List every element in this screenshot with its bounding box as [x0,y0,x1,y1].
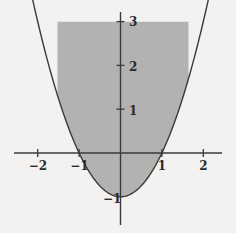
x-tick-label-2: 2 [199,160,207,172]
x-tick-label-neg1: −1 [70,160,88,172]
y-tick-label-3: 3 [129,16,137,28]
parabola-figure: −2 −1 1 2 3 2 1 −1 [0,0,236,233]
y-tick-label-1: 1 [129,105,137,117]
y-tick-label-2: 2 [129,61,137,73]
x-tick-label-neg2: −2 [29,160,47,172]
x-tick-label-1: 1 [158,160,166,172]
y-tick-label-neg1: −1 [103,193,121,205]
